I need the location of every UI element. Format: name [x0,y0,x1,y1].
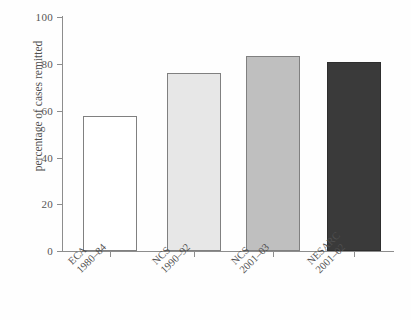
x-tick-mark-3 [354,252,355,257]
x-tick-mark-0 [110,252,111,257]
y-tick-label-20: 20 [41,198,53,210]
chart-figure: percentage of cases remitted 100 80 60 4… [0,0,411,320]
bar-nesarc-2001-02[interactable] [327,62,381,252]
plot-area [63,17,393,251]
bar-ncs-1990-92[interactable] [167,73,221,251]
x-tick-mark-2 [273,252,274,257]
x-tick-mark-1 [194,252,195,257]
y-tick-label-80: 80 [41,58,53,70]
y-tick-label-100: 100 [36,11,53,23]
y-tick-label-0: 0 [47,245,53,257]
bar-ncs-2001-03[interactable] [246,56,300,251]
y-tick-label-60: 60 [41,105,53,117]
bar-eca-1980-84[interactable] [83,116,137,251]
y-tick-label-40: 40 [41,152,53,164]
